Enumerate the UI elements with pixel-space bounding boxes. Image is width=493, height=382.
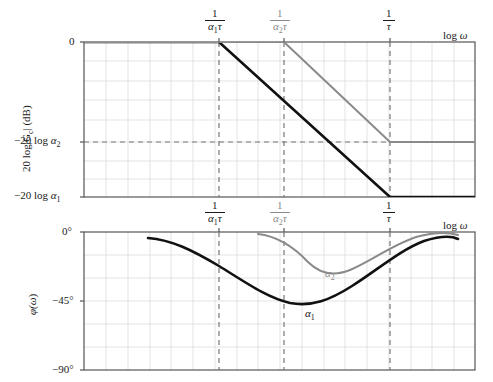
top-yaxis-label: 20 log|Gc| (dB) bbox=[20, 105, 35, 172]
top-yaxis-tail: | (dB) bbox=[20, 105, 32, 130]
alpha2-label-sub: 2 bbox=[331, 273, 335, 282]
bottom-xtick-label-1-alpha2-tau: 1 α2τ bbox=[270, 200, 290, 227]
top-xaxis-omega: ω bbox=[460, 29, 468, 41]
bottom-ytick-label-minus90deg: −90° bbox=[52, 363, 74, 375]
bottom-xaxis-label: log ω bbox=[443, 219, 468, 231]
bottom-xtick-2-tau: τ bbox=[283, 212, 287, 224]
bottom-yaxis-label: φ(ω) bbox=[26, 294, 38, 315]
top-xtick-2-tau: τ bbox=[283, 20, 287, 32]
top-xtick-label-1-tau: 1 τ bbox=[383, 8, 395, 32]
top-xaxis-log: log bbox=[443, 29, 457, 41]
alpha1-label-sub: 1 bbox=[311, 313, 315, 322]
bottom-xtick-label-1-tau: 1 τ bbox=[383, 200, 395, 224]
top-yaxis-sub: c bbox=[26, 131, 35, 135]
bottom-ytick-2-text: −90° bbox=[52, 363, 74, 375]
bottom-xaxis-log: log bbox=[443, 219, 457, 231]
bottom-xtick-1-tau: τ bbox=[218, 212, 222, 224]
top-ytick-2-prefix: −20 log bbox=[14, 189, 51, 201]
top-ytick-0-text: 0 bbox=[69, 35, 75, 47]
top-yaxis-prefix: 20 log|G bbox=[20, 134, 32, 172]
top-xtick-3-tau: τ bbox=[387, 20, 391, 32]
top-ytick-label-minus20logalpha1: −20 log α1 bbox=[14, 189, 61, 204]
top-xtick-label-1-alpha2-tau: 1 α2τ bbox=[270, 8, 290, 35]
alpha1-curve-label: α1 bbox=[305, 307, 315, 322]
top-ytick-2-sub: 1 bbox=[57, 195, 61, 204]
bottom-yaxis-omega: ω bbox=[26, 297, 38, 305]
bottom-ytick-label-0deg: 0° bbox=[62, 225, 72, 237]
bottom-ytick-label-minus45deg: −45° bbox=[52, 294, 74, 306]
bottom-xaxis-omega: ω bbox=[460, 219, 468, 231]
bottom-xtick-label-1-alpha1-tau: 1 α1τ bbox=[205, 200, 225, 227]
alpha2-curve-label: α2 bbox=[325, 267, 335, 282]
bottom-ytick-1-text: −45° bbox=[52, 294, 74, 306]
bottom-yaxis-close: ) bbox=[26, 294, 38, 298]
top-ytick-1-sub: 2 bbox=[57, 140, 61, 149]
bottom-xtick-3-tau: τ bbox=[387, 212, 391, 224]
top-xaxis-label: log ω bbox=[443, 29, 468, 41]
bode-plot-figure bbox=[0, 0, 493, 382]
bottom-ytick-0-text: 0° bbox=[62, 225, 72, 237]
figure-background bbox=[0, 0, 493, 382]
top-xtick-label-1-alpha1-tau: 1 α1τ bbox=[205, 8, 225, 35]
bottom-yaxis-phi: φ( bbox=[26, 305, 38, 315]
top-ytick-label-0: 0 bbox=[69, 35, 75, 47]
top-xtick-1-tau: τ bbox=[218, 20, 222, 32]
